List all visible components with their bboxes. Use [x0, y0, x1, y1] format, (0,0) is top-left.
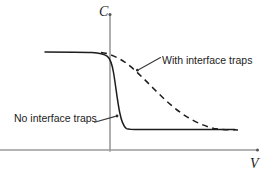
x-axis-label: V [250, 157, 259, 171]
y-axis-label: C [99, 5, 108, 19]
x-axis-end-cap [256, 149, 259, 152]
y-axis-end-cap [109, 13, 112, 16]
cv-curve-figure: C V With interface traps No interface tr… [0, 0, 268, 177]
leader-dot-no-interface-traps [116, 115, 119, 118]
annotation-with-interface-traps: With interface traps [162, 55, 252, 66]
chart-canvas [0, 0, 268, 177]
leader-dot-with-interface-traps [136, 69, 139, 72]
leader-line-no-interface-traps [95, 116, 116, 122]
leader-line-with-interface-traps [139, 58, 161, 70]
annotation-no-interface-traps: No interface traps [14, 113, 97, 124]
